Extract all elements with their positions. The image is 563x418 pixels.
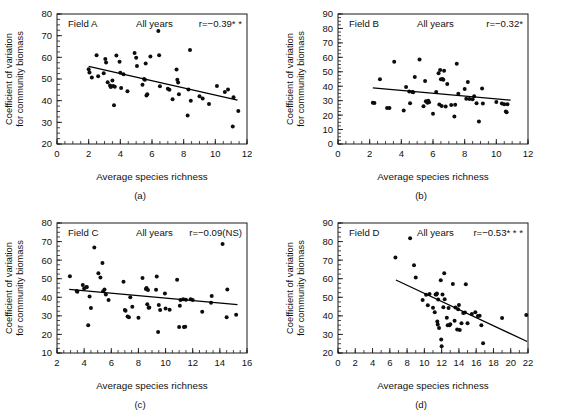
panel-c: 2468101214161020304050607080 Field C All… [0,209,281,418]
svg-text:0: 0 [335,357,340,368]
svg-text:20: 20 [41,138,52,149]
svg-text:80: 80 [322,236,333,247]
panel-a-xlabel: Average species richness [96,171,208,182]
panel-b-plot: 0246810120102030405060708090 Field B All… [281,0,562,209]
svg-text:2: 2 [367,148,372,159]
panel-d-data-points [393,236,528,348]
panel-d-xlabel: Average species richness [377,380,489,391]
panel-c-plot: 2468101214161020304050607080 Field C All… [0,209,281,418]
svg-text:18: 18 [488,357,499,368]
svg-text:60: 60 [41,52,52,63]
panel-b-field-label: Field B [349,18,379,29]
svg-text:10: 10 [491,148,502,159]
svg-text:6: 6 [430,148,435,159]
panel-d-frame [338,223,528,353]
svg-text:60: 60 [322,52,333,63]
panel-d-ticks [338,223,528,353]
svg-text:40: 40 [41,95,52,106]
panel-d-years-note: All years [417,227,454,238]
panel-c-data-points [68,242,238,334]
svg-text:8: 8 [462,148,467,159]
panel-a-ticks [57,14,247,144]
svg-text:12: 12 [242,148,253,159]
panel-a-ylabel-line1: Coefficient of variation [4,33,14,125]
panel-c-field-label: Field C [68,227,98,238]
panel-a-ylabel-line2: for community biomass [15,31,25,127]
svg-text:90: 90 [322,8,333,19]
panel-d-ylabel: Coefficient of variation for community b… [285,240,306,336]
panel-b-regression-line [373,88,511,100]
panel-d-ylabel-line1: Coefficient of variation [285,242,295,334]
svg-text:40: 40 [322,81,333,92]
svg-text:40: 40 [322,310,333,321]
svg-text:2: 2 [54,357,59,368]
svg-text:80: 80 [322,23,333,34]
svg-text:4: 4 [118,148,123,159]
svg-text:22: 22 [523,357,534,368]
svg-text:8: 8 [404,357,409,368]
panel-a-regression-line [89,66,238,100]
panel-b-ylabel-line2: for community biomass [296,31,306,127]
svg-text:10: 10 [160,357,171,368]
svg-text:80: 80 [41,217,52,228]
svg-text:10: 10 [322,124,333,135]
svg-text:10: 10 [41,347,52,358]
svg-text:30: 30 [41,310,52,321]
panel-b-xlabel: Average species richness [377,171,489,182]
panel-b-caption: (b) [415,190,427,201]
panel-b-frame [338,14,528,144]
svg-text:14: 14 [454,357,465,368]
panel-c-xlabel: Average species richness [96,380,208,391]
panel-c-r-label: r=−0.09(NS) [189,227,242,238]
panel-a: 02468101220304050607080 Field A All year… [0,0,281,209]
panel-a-frame [57,14,247,144]
panel-b-ticks [338,14,528,144]
panel-b: 0246810120102030405060708090 Field B All… [281,0,562,209]
panel-c-years-note: All years [136,227,173,238]
svg-text:4: 4 [399,148,404,159]
panel-c-ylabel-line1: Coefficient of variation [4,242,14,334]
svg-text:2: 2 [353,357,358,368]
panel-b-years-note: All years [417,18,454,29]
panel-d-ylabel-line2: for community biomass [296,240,306,336]
svg-text:80: 80 [41,8,52,19]
svg-text:30: 30 [322,95,333,106]
svg-text:6: 6 [109,357,114,368]
svg-text:90: 90 [322,217,333,228]
svg-text:16: 16 [242,357,253,368]
svg-text:2: 2 [86,148,91,159]
figure-four-panel-scatter: 02468101220304050607080 Field A All year… [0,0,563,418]
svg-text:8: 8 [136,357,141,368]
svg-text:12: 12 [187,357,198,368]
panel-a-plot: 02468101220304050607080 Field A All year… [0,0,281,209]
svg-text:70: 70 [322,37,333,48]
svg-text:30: 30 [41,117,52,128]
panel-d-plot: 02468101214161820222030405060708090 Fiel… [281,209,562,418]
svg-text:20: 20 [41,329,52,340]
svg-text:12: 12 [523,148,534,159]
svg-text:70: 70 [41,30,52,41]
panel-c-ylabel: Coefficient of variation for community b… [4,240,25,336]
panel-a-tick-labels: 02468101220304050607080 [41,8,252,159]
panel-b-data-points [371,58,510,124]
panel-b-r-label: r=−0.32* [486,18,523,29]
svg-text:10: 10 [419,357,430,368]
svg-text:4: 4 [81,357,86,368]
panel-a-field-label: Field A [68,18,98,29]
svg-text:8: 8 [181,148,186,159]
svg-text:40: 40 [41,292,52,303]
svg-text:6: 6 [387,357,392,368]
svg-text:70: 70 [41,236,52,247]
svg-text:4: 4 [370,357,375,368]
svg-text:6: 6 [149,148,154,159]
panel-a-years-note: All years [136,18,173,29]
panel-b-ylabel: Coefficient of variation for community b… [285,31,306,127]
panel-d-tick-labels: 02468101214161820222030405060708090 [322,217,533,368]
svg-text:14: 14 [215,357,226,368]
panel-b-ylabel-line1: Coefficient of variation [285,33,295,125]
svg-text:10: 10 [210,148,221,159]
svg-text:0: 0 [54,148,59,159]
svg-text:30: 30 [322,329,333,340]
svg-text:50: 50 [41,273,52,284]
panel-c-caption: (c) [134,399,145,410]
